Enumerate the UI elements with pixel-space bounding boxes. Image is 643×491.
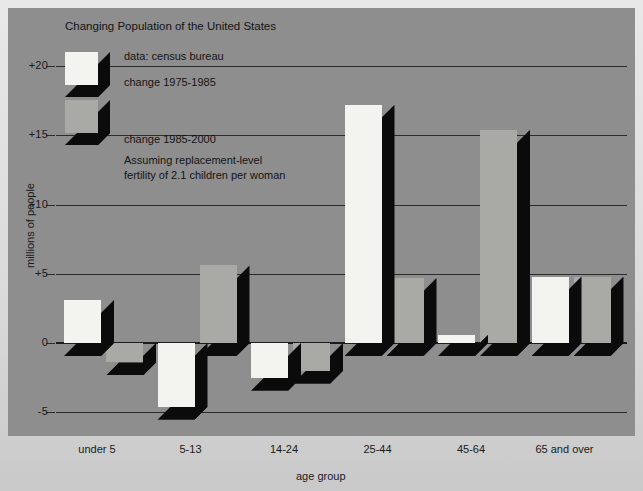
bar-face <box>64 300 101 343</box>
bar-side-shadow <box>237 265 250 356</box>
legend-swatch-bottom-shadow <box>65 85 110 97</box>
bar-face <box>106 343 143 362</box>
legend-swatch-1975-1985 <box>65 52 98 85</box>
xtick-label-14-24: 14-24 <box>237 443 331 455</box>
plot-area: +20+15+10+50-5millions of peopleChanging… <box>8 8 635 436</box>
bar-face <box>532 277 569 343</box>
chart-panel: +20+15+10+50-5millions of peopleChanging… <box>8 8 635 436</box>
gridline-+20 <box>56 66 627 67</box>
bar-45-64-series1[interactable] <box>438 335 475 343</box>
bar-65-and-over-series1[interactable] <box>532 277 569 343</box>
source-note: data: census bureau <box>124 50 224 62</box>
footnote-line-2: fertility of 2.1 children per woman <box>124 169 285 181</box>
footnote-line-1: Assuming replacement-level <box>124 154 262 166</box>
figure-canvas: +20+15+10+50-5millions of peopleChanging… <box>0 0 643 491</box>
bar-face <box>345 105 382 343</box>
legend-swatch-face <box>65 100 98 133</box>
ytick-label-+5: +5 <box>8 267 48 279</box>
legend-label-1985-2000: change 1985-2000 <box>124 133 216 145</box>
bar-face <box>200 265 237 343</box>
xtick-label-65-and-over: 65 and over <box>518 443 612 455</box>
bar-under-5-series1[interactable] <box>64 300 101 343</box>
xtick-label-45-64: 45-64 <box>424 443 518 455</box>
legend-swatch-1985-2000 <box>65 100 98 133</box>
xtick-label-5-13: 5-13 <box>144 443 238 455</box>
ytick-label-+20: +20 <box>8 59 48 71</box>
bar-bottom-shadow <box>387 343 437 356</box>
bar-bottom-shadow <box>532 343 582 356</box>
gridline--5 <box>56 412 627 413</box>
ytick-label-+15: +15 <box>8 128 48 140</box>
bar-5-13-series1[interactable] <box>158 343 195 407</box>
bar-under-5-series2[interactable] <box>106 343 143 362</box>
bar-14-24-series1[interactable] <box>251 343 288 378</box>
ytick-label-0: 0 <box>8 336 48 348</box>
bar-side-shadow <box>382 105 395 356</box>
xtick-label-25-44: 25-44 <box>331 443 425 455</box>
bar-face <box>480 130 517 343</box>
xtick-label-under-5: under 5 <box>50 443 144 455</box>
gridline-+5 <box>56 274 627 275</box>
bar-face <box>438 335 475 343</box>
bar-side-shadow <box>517 130 530 356</box>
legend-swatch-face <box>65 52 98 85</box>
ytick-label--5: -5 <box>8 405 48 417</box>
bar-45-64-series2[interactable] <box>480 130 517 343</box>
x-axis-title: age group <box>296 470 346 482</box>
bar-5-13-series2[interactable] <box>200 265 237 343</box>
y-axis-title: millions of people <box>24 183 36 268</box>
bar-25-44-series1[interactable] <box>345 105 382 343</box>
bar-bottom-shadow <box>480 343 530 356</box>
bar-face <box>158 343 195 407</box>
gridline-+10 <box>56 205 627 206</box>
legend-label-1975-1985: change 1975-1985 <box>124 76 216 88</box>
bar-bottom-shadow <box>251 378 301 391</box>
chart-title: Changing Population of the United States <box>65 20 276 32</box>
bar-face <box>251 343 288 378</box>
bar-bottom-shadow <box>345 343 395 356</box>
bar-bottom-shadow <box>106 362 156 375</box>
bar-bottom-shadow <box>574 343 624 356</box>
bar-bottom-shadow <box>158 407 208 420</box>
bar-bottom-shadow <box>438 343 488 356</box>
